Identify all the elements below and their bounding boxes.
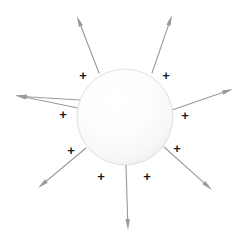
field-arrow-up-left	[77, 16, 99, 73]
field-arrow-up-right-head	[166, 15, 172, 26]
field-arrow-down-shaft	[126, 165, 128, 219]
field-arrow-up-left-shaft	[81, 26, 99, 73]
field-arrow-up-right	[152, 15, 172, 73]
field-arrow-down-left	[38, 148, 86, 188]
field-arrow-up-left-head	[77, 16, 83, 27]
field-arrow-up-right-shaft	[152, 25, 168, 73]
electric-field-diagram: ++++++++	[0, 0, 251, 248]
charged-sphere	[77, 69, 173, 165]
charge-plus-lower-right: +	[173, 141, 181, 156]
charge-plus-bottom-left: +	[97, 169, 105, 184]
field-arrow-down-right-shaft	[164, 147, 204, 183]
charge-plus-left: +	[59, 107, 67, 122]
field-arrow-right-shaft	[172, 93, 223, 110]
field-arrow-down	[125, 165, 129, 230]
charge-plus-top-right: +	[162, 68, 170, 83]
field-arrow-down-right	[164, 147, 212, 190]
field-arrow-right-head	[222, 89, 233, 95]
charge-plus-right: +	[181, 108, 189, 123]
charge-plus-top-left: +	[79, 68, 87, 83]
charge-plus-lower-left: +	[67, 143, 75, 158]
field-arrow-down-head	[125, 219, 129, 230]
field-arrow-upper-left-2	[16, 94, 80, 100]
diagram-canvas: ++++++++	[0, 0, 251, 248]
charge-plus-bottom-right: +	[143, 169, 151, 184]
